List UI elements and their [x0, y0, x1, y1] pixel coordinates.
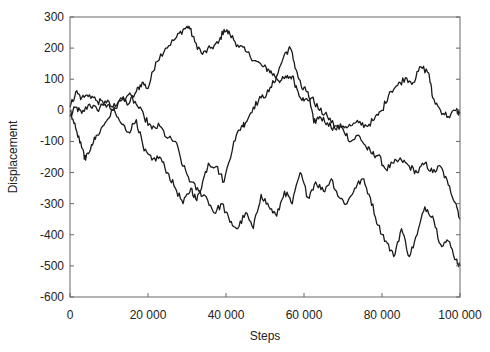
x-axis-title: Steps [250, 329, 281, 343]
y-axis-label: Displacement [6, 120, 20, 193]
y-axis-title: Displacement [6, 120, 20, 193]
y-tick-label: -600 [40, 290, 64, 304]
y-tick-label: 200 [44, 41, 64, 55]
series-line-walk-3 [70, 93, 460, 267]
x-tick-label: 40 000 [208, 308, 245, 322]
y-tick-label: -400 [40, 228, 64, 242]
y-tick-label: -200 [40, 166, 64, 180]
x-tick-label: 80 000 [364, 308, 401, 322]
x-tick-label: 20 000 [130, 308, 167, 322]
y-tick-label: -300 [40, 197, 64, 211]
y-tick-label: -500 [40, 259, 64, 273]
plot-frame [70, 17, 460, 297]
x-tick-label: 0 [67, 308, 74, 322]
x-tick-label: 100 000 [438, 308, 482, 322]
y-tick-label: 0 [57, 103, 64, 117]
y-tick-label: 100 [44, 72, 64, 86]
random-walk-chart: Displacement Steps 020 00040 00060 00080… [0, 0, 490, 352]
series-line-walk-1 [70, 26, 460, 219]
y-tick-label: 300 [44, 10, 64, 24]
y-tick-label: -100 [40, 134, 64, 148]
series-line-walk-2 [70, 47, 460, 204]
x-tick-label: 60 000 [286, 308, 323, 322]
series-lines [70, 26, 460, 266]
